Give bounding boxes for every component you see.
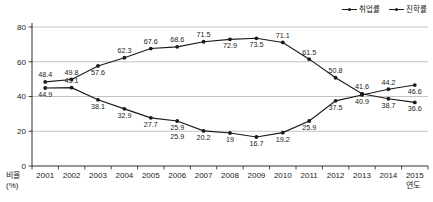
chart-svg: 020406080 200120022003200420052006200720… — [0, 0, 433, 202]
y-axis-caption-line2: (%) — [6, 181, 19, 190]
data-point[interactable] — [334, 76, 338, 80]
point-value-label: 71.5 — [197, 30, 211, 39]
x-tick-label: 2006 — [168, 171, 186, 180]
x-tick-label: 2013 — [353, 171, 371, 180]
x-tick-label: 2004 — [116, 171, 134, 180]
point-value-label: 41.6 — [355, 82, 369, 91]
data-point[interactable] — [175, 45, 179, 49]
point-value-label: 38.1 — [91, 102, 105, 111]
y-tick-label: 0 — [22, 162, 27, 171]
x-tick-labels-group: 2001200220032004200520062007200820092010… — [36, 171, 424, 180]
point-value-label: 61.5 — [302, 48, 316, 57]
point-value-label: 19.2 — [276, 135, 290, 144]
chart-container: 취업률 진학률 020406080 2001200220032004200520… — [0, 0, 433, 202]
data-point[interactable] — [70, 86, 74, 90]
y-tick-labels-group: 020406080 — [17, 23, 26, 171]
x-tick-label: 2014 — [380, 171, 398, 180]
point-value-label: 16.7 — [249, 139, 263, 148]
point-value-label: 44.2 — [381, 78, 395, 87]
y-tick-label: 20 — [17, 127, 26, 136]
data-point[interactable] — [149, 47, 153, 51]
point-value-label: 25.9 — [170, 123, 184, 132]
point-value-label: 20.2 — [197, 133, 211, 142]
data-point[interactable] — [387, 87, 391, 91]
point-value-label: 40.9 — [355, 97, 369, 106]
point-value-label-duplicate: 25.9 — [170, 132, 184, 141]
point-value-label: 46.6 — [408, 87, 422, 96]
y-tick-label: 80 — [17, 23, 26, 32]
point-value-label: 45.1 — [65, 76, 79, 85]
data-point[interactable] — [123, 56, 127, 60]
point-value-label: 49.8 — [65, 68, 79, 77]
x-tick-label: 2010 — [274, 171, 292, 180]
point-value-label: 27.7 — [144, 120, 158, 129]
data-point[interactable] — [281, 41, 285, 45]
y-tick-label: 40 — [17, 92, 26, 101]
data-point[interactable] — [202, 40, 206, 44]
series-line-employment — [45, 85, 415, 137]
point-value-label: 71.1 — [276, 31, 290, 40]
point-value-label: 72.9 — [223, 41, 237, 50]
point-value-label: 67.6 — [144, 37, 158, 46]
point-value-label: 44.9 — [38, 90, 52, 99]
x-tick-label: 2003 — [89, 171, 107, 180]
x-tick-label: 2015 — [406, 171, 424, 180]
x-tick-label: 2012 — [327, 171, 345, 180]
point-value-label: 48.4 — [38, 70, 52, 79]
point-labels-group: 44.945.138.132.927.725.920.21916.719.225… — [38, 30, 422, 148]
data-point[interactable] — [360, 92, 364, 96]
point-value-label: 37.5 — [329, 103, 343, 112]
point-value-label: 36.6 — [408, 104, 422, 113]
x-tick-label: 2011 — [301, 171, 319, 180]
x-tick-label: 2007 — [195, 171, 213, 180]
x-tick-label: 2008 — [221, 171, 239, 180]
x-tick-label: 2001 — [36, 171, 54, 180]
point-value-label: 68.6 — [170, 35, 184, 44]
x-tick-label: 2009 — [248, 171, 266, 180]
data-point[interactable] — [43, 80, 47, 84]
plot-area: 020406080 200120022003200420052006200720… — [0, 0, 433, 202]
point-value-label: 25.9 — [302, 123, 316, 132]
y-tick-label: 60 — [17, 58, 26, 67]
point-value-label: 38.7 — [381, 101, 395, 110]
point-value-label: 62.3 — [117, 46, 131, 55]
y-axis-caption-line1: 비율 — [6, 171, 20, 180]
point-value-label: 73.5 — [249, 40, 263, 49]
x-tick-label: 2005 — [142, 171, 160, 180]
data-point[interactable] — [307, 57, 311, 61]
point-value-label: 57.6 — [91, 68, 105, 77]
point-value-label: 50.8 — [329, 66, 343, 75]
x-tick-label: 2002 — [63, 171, 81, 180]
point-value-label: 32.9 — [117, 111, 131, 120]
point-value-label: 19 — [226, 135, 234, 144]
x-axis-caption: 연도 — [406, 181, 420, 190]
